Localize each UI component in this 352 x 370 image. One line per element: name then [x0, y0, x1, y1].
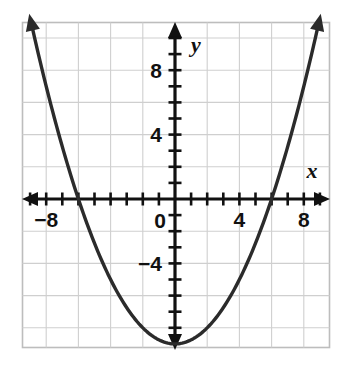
x-tick-label: 8	[298, 208, 310, 231]
y-tick-label: −4	[138, 252, 162, 275]
origin-label: 0	[154, 209, 166, 232]
coordinate-plane-plot: −84884−4 0 x y	[0, 0, 352, 370]
graph-figure: −84884−4 0 x y	[0, 0, 352, 370]
y-tick-label: 8	[150, 59, 162, 82]
x-tick-label: −8	[34, 208, 58, 231]
x-tick-label: 4	[234, 208, 246, 231]
y-tick-label: 4	[150, 123, 162, 146]
x-axis-label: x	[306, 158, 318, 183]
